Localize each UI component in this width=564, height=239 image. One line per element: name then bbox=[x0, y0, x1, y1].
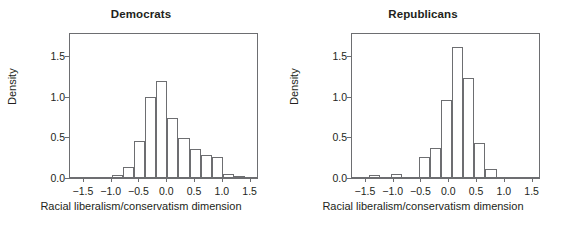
histogram-bar bbox=[463, 78, 474, 177]
y-axis-tick bbox=[347, 97, 351, 98]
x-axis-tick bbox=[393, 178, 394, 182]
x-axis-tick-label: −1.5 bbox=[355, 185, 376, 197]
histogram-bar bbox=[112, 175, 123, 177]
panel-democrats: Democrats Density 0.00.51.01.5 −1.5−1.0−… bbox=[0, 0, 282, 239]
histogram-bar bbox=[391, 174, 402, 177]
histogram-bar bbox=[178, 138, 189, 177]
y-axis-tick bbox=[347, 56, 351, 57]
x-axis-tick-label: −0.5 bbox=[410, 185, 431, 197]
histogram-bar bbox=[485, 169, 496, 177]
y-axis-tick-label: 0.5 bbox=[332, 131, 347, 143]
y-axis-tick-label: 1.0 bbox=[332, 91, 347, 103]
histogram-bar bbox=[145, 97, 156, 177]
y-axis-left: 0.00.51.01.5 bbox=[69, 33, 70, 178]
panel-title-democrats: Democrats bbox=[0, 8, 282, 20]
panel-title-republicans: Republicans bbox=[282, 8, 564, 20]
histogram-bar bbox=[234, 176, 245, 177]
y-axis-right: 0.00.51.01.5 bbox=[351, 33, 352, 178]
histogram-bar bbox=[474, 143, 485, 177]
x-axis-label-left: Racial liberalism/conservatism dimension bbox=[0, 200, 282, 212]
y-axis-tick bbox=[65, 56, 69, 57]
y-axis-tick bbox=[65, 97, 69, 98]
x-axis-tick bbox=[83, 178, 84, 182]
histogram-bar bbox=[430, 148, 441, 177]
histogram-bar bbox=[167, 118, 178, 177]
histogram-bar bbox=[190, 149, 201, 177]
x-axis-tick bbox=[532, 178, 533, 182]
x-axis-tick-label: 1.5 bbox=[242, 185, 257, 197]
x-axis-left: −1.5−1.0−0.50.00.51.01.5 bbox=[69, 178, 258, 179]
histogram-bars-republicans bbox=[352, 34, 539, 177]
histogram-bar bbox=[369, 175, 380, 177]
y-axis-tick bbox=[65, 137, 69, 138]
histogram-bar bbox=[134, 141, 145, 177]
histogram-bars-democrats bbox=[70, 34, 257, 177]
x-axis-tick-label: −0.5 bbox=[128, 185, 149, 197]
x-axis-tick-label: 1.5 bbox=[524, 185, 539, 197]
x-axis-tick-label: 1.0 bbox=[497, 185, 512, 197]
y-axis-tick-label: 1.5 bbox=[50, 50, 65, 62]
histogram-bar bbox=[223, 174, 234, 177]
histogram-bar bbox=[441, 100, 452, 177]
histogram-bar bbox=[201, 155, 212, 177]
x-axis-tick-label: 0.0 bbox=[441, 185, 456, 197]
x-axis-tick bbox=[194, 178, 195, 182]
y-axis-tick-label: 1.5 bbox=[332, 50, 347, 62]
histogram-bar bbox=[419, 157, 430, 177]
y-axis-tick bbox=[347, 137, 351, 138]
x-axis-tick bbox=[365, 178, 366, 182]
x-axis-tick bbox=[111, 178, 112, 182]
x-axis-tick-label: −1.0 bbox=[100, 185, 121, 197]
y-axis-label-left: Density bbox=[6, 68, 18, 105]
x-axis-tick-label: 0.0 bbox=[159, 185, 174, 197]
histogram-figure: Democrats Density 0.00.51.01.5 −1.5−1.0−… bbox=[0, 0, 564, 239]
plot-area-republicans bbox=[351, 33, 540, 178]
x-axis-tick bbox=[504, 178, 505, 182]
x-axis-tick bbox=[222, 178, 223, 182]
x-axis-tick bbox=[448, 178, 449, 182]
y-axis-tick-label: 0.5 bbox=[50, 131, 65, 143]
x-axis-tick bbox=[166, 178, 167, 182]
x-axis-tick-label: −1.0 bbox=[382, 185, 403, 197]
panel-republicans: Republicans Density 0.00.51.01.5 −1.5−1.… bbox=[282, 0, 564, 239]
x-axis-tick bbox=[138, 178, 139, 182]
x-axis-tick bbox=[476, 178, 477, 182]
plot-area-democrats bbox=[69, 33, 258, 178]
y-axis-tick-label: 1.0 bbox=[50, 91, 65, 103]
histogram-bar bbox=[123, 167, 134, 177]
histogram-bar bbox=[156, 81, 167, 177]
histogram-bar bbox=[452, 47, 463, 177]
x-axis-tick bbox=[420, 178, 421, 182]
x-axis-tick bbox=[250, 178, 251, 182]
histogram-bar bbox=[212, 157, 223, 177]
x-axis-tick-label: −1.5 bbox=[73, 185, 94, 197]
y-axis-tick-label: 0.0 bbox=[332, 172, 347, 184]
y-axis-label-right: Density bbox=[288, 68, 300, 105]
x-axis-tick-label: 1.0 bbox=[215, 185, 230, 197]
x-axis-tick-label: 0.5 bbox=[469, 185, 484, 197]
x-axis-right: −1.5−1.0−0.50.00.51.01.5 bbox=[351, 178, 540, 179]
x-axis-label-right: Racial liberalism/conservatism dimension bbox=[282, 200, 564, 212]
x-axis-tick-label: 0.5 bbox=[187, 185, 202, 197]
y-axis-tick-label: 0.0 bbox=[50, 172, 65, 184]
